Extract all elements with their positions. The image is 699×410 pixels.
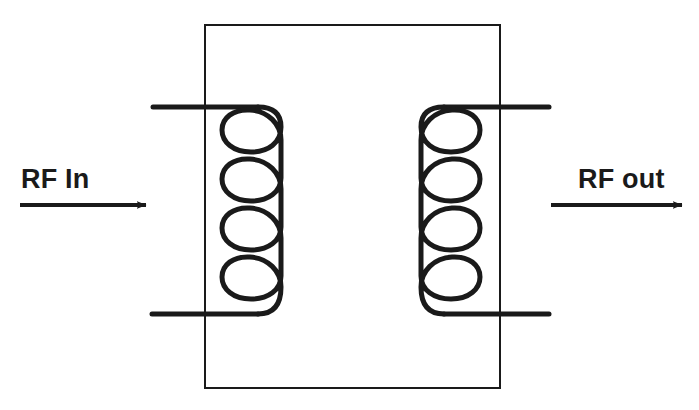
primary-coil bbox=[152, 107, 281, 314]
rf-in-label: RF In bbox=[21, 164, 90, 194]
secondary-coil bbox=[421, 107, 549, 314]
schematic-canvas: RF In RF out bbox=[0, 0, 699, 410]
rf-out-label: RF out bbox=[578, 164, 665, 194]
rf-transformer-diagram: RF In RF out bbox=[0, 0, 699, 410]
primary-helix bbox=[222, 107, 281, 314]
secondary-helix bbox=[421, 107, 480, 314]
